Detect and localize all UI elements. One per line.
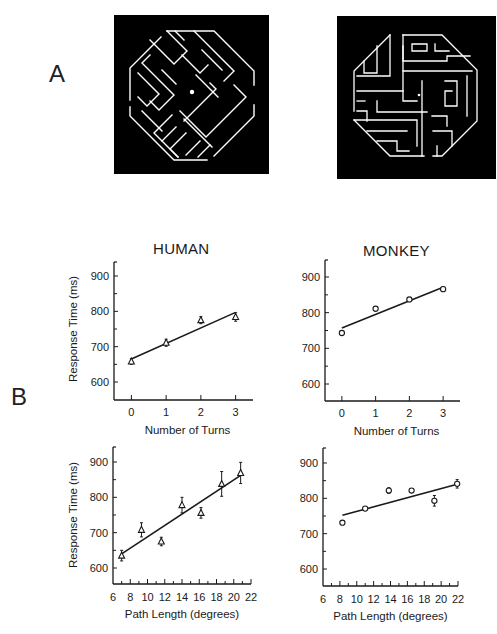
data-point-circle bbox=[373, 306, 378, 311]
y-tick-label: 900 bbox=[302, 271, 320, 283]
y-tick-label: 800 bbox=[90, 491, 108, 503]
data-point-triangle bbox=[198, 509, 204, 515]
x-axis-label: Path Length (degrees) bbox=[333, 610, 448, 622]
regression-line bbox=[342, 484, 457, 515]
data-point-circle bbox=[409, 488, 414, 493]
data-point-circle bbox=[432, 498, 437, 503]
human-path-chart: 6007008009006810121416182022Path Length … bbox=[67, 447, 257, 620]
y-tick-label: 600 bbox=[302, 378, 320, 390]
data-point-triangle bbox=[179, 502, 185, 508]
x-tick-label: 10 bbox=[141, 591, 153, 603]
y-tick-label: 900 bbox=[300, 457, 318, 469]
data-point-circle bbox=[339, 330, 344, 335]
x-tick-label: 0 bbox=[128, 406, 134, 418]
x-tick-label: 18 bbox=[210, 591, 222, 603]
x-tick-label: 10 bbox=[351, 593, 363, 605]
regression-line bbox=[342, 287, 443, 328]
y-tick-label: 900 bbox=[90, 456, 108, 468]
x-tick-label: 18 bbox=[418, 593, 430, 605]
x-tick-label: 3 bbox=[440, 407, 446, 419]
y-axis-label: Response Time (ms) bbox=[67, 276, 79, 382]
x-tick-label: 6 bbox=[110, 591, 116, 603]
data-point-triangle bbox=[158, 538, 164, 544]
data-point-triangle bbox=[233, 313, 239, 319]
data-point-circle bbox=[407, 297, 412, 302]
data-point-circle bbox=[441, 287, 446, 292]
x-tick-label: 3 bbox=[233, 406, 239, 418]
charts-canvas: 6007008009000123Number of TurnsResponse … bbox=[0, 0, 497, 634]
y-tick-label: 600 bbox=[90, 562, 108, 574]
x-tick-label: 22 bbox=[452, 593, 464, 605]
y-tick-label: 700 bbox=[91, 341, 109, 353]
x-tick-label: 8 bbox=[337, 593, 343, 605]
y-tick-label: 700 bbox=[300, 528, 318, 540]
data-point-triangle bbox=[163, 339, 169, 345]
data-point-triangle bbox=[219, 480, 225, 486]
y-tick-label: 700 bbox=[302, 342, 320, 354]
data-point-triangle bbox=[238, 469, 244, 475]
y-tick-label: 800 bbox=[91, 305, 109, 317]
y-tick-label: 700 bbox=[90, 527, 108, 539]
x-tick-label: 1 bbox=[163, 406, 169, 418]
x-tick-label: 20 bbox=[435, 593, 447, 605]
x-tick-label: 14 bbox=[176, 591, 188, 603]
data-point-triangle bbox=[138, 526, 144, 532]
data-point-triangle bbox=[198, 317, 204, 323]
x-tick-label: 16 bbox=[193, 591, 205, 603]
regression-line bbox=[122, 475, 241, 553]
x-tick-label: 20 bbox=[228, 591, 240, 603]
data-point-circle bbox=[455, 481, 460, 486]
x-tick-label: 12 bbox=[159, 591, 171, 603]
y-tick-label: 600 bbox=[300, 563, 318, 575]
x-tick-label: 0 bbox=[339, 407, 345, 419]
x-tick-label: 8 bbox=[127, 591, 133, 603]
x-tick-label: 16 bbox=[401, 593, 413, 605]
x-tick-label: 14 bbox=[384, 593, 396, 605]
x-tick-label: 6 bbox=[320, 593, 326, 605]
y-axis-label: Response Time (ms) bbox=[67, 462, 79, 568]
x-tick-label: 22 bbox=[245, 591, 257, 603]
x-tick-label: 1 bbox=[373, 407, 379, 419]
x-tick-label: 12 bbox=[368, 593, 380, 605]
x-axis-label: Path Length (degrees) bbox=[125, 608, 240, 620]
x-tick-label: 2 bbox=[198, 406, 204, 418]
y-tick-label: 600 bbox=[91, 376, 109, 388]
data-point-circle bbox=[340, 520, 345, 525]
data-point-circle bbox=[363, 506, 368, 511]
x-tick-label: 2 bbox=[406, 407, 412, 419]
data-point-circle bbox=[386, 488, 391, 493]
y-tick-label: 800 bbox=[302, 307, 320, 319]
y-tick-label: 800 bbox=[300, 492, 318, 504]
y-tick-label: 900 bbox=[91, 270, 109, 282]
monkey-path-chart: 6007008009006810121416182022Path Length … bbox=[300, 448, 464, 622]
human-turns-chart: 6007008009000123Number of TurnsResponse … bbox=[67, 262, 253, 436]
x-axis-label: Number of Turns bbox=[354, 425, 440, 437]
x-axis-label: Number of Turns bbox=[145, 424, 231, 436]
regression-line bbox=[131, 312, 235, 359]
monkey-turns-chart: 6007008009000123Number of Turns bbox=[302, 260, 460, 437]
